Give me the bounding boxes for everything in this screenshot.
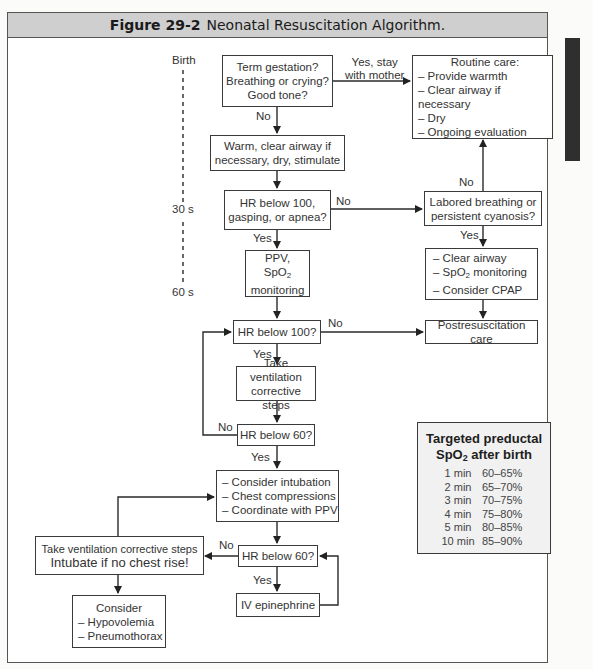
spo2-table-subtitle: SpO2 after birth (436, 447, 532, 466)
hr60-text: HR below 60? (242, 549, 314, 563)
edge-label-no: No (459, 176, 474, 188)
routine-care-title: Routine care: (451, 55, 519, 69)
clear-airway-box: – Clear airway – SpO2 monitoring – Consi… (425, 248, 538, 300)
postresuscitation-box: Postresuscitation care (425, 320, 538, 344)
ppv-line: PPV, (265, 251, 290, 265)
routine-care-box: Routine care: – Provide warmth – Clear a… (412, 55, 553, 139)
spo2-target-table: Targeted preductal SpO2 after birth 1 mi… (417, 422, 551, 554)
hr60-box-a: HR below 60? (237, 424, 315, 446)
spo2-row: 2 min65–70% (434, 481, 534, 495)
hr100-text: HR below 100? (238, 325, 317, 339)
assess-box: Term gestation? Breathing or crying? Goo… (222, 55, 333, 107)
ventilation-line: corrective steps (237, 384, 315, 412)
hr60-box-b: HR below 60? (238, 545, 318, 567)
timeline-30s: 30 s (172, 203, 194, 215)
ppv-box: PPV, SpO2 monitoring (245, 250, 310, 297)
edge-label-yes: Yes (253, 348, 272, 360)
routine-care-item: – Provide warmth (418, 69, 507, 83)
intubation-item: – Coordinate with PPV (222, 503, 338, 517)
epinephrine-text: IV epinephrine (241, 598, 315, 612)
edge-label-no: No (219, 539, 234, 551)
warm-line: Warm, clear airway if (224, 139, 331, 153)
edge-label-no: No (256, 110, 271, 122)
ventilation-left-line2: Intubate if no chest rise! (50, 556, 188, 570)
assess-line: Term gestation? (237, 60, 319, 74)
clear-airway-item: – Clear airway (433, 251, 507, 265)
routine-care-item: – Dry (418, 111, 445, 125)
intubation-item: – Consider intubation (222, 475, 331, 489)
spo2-row: 10 min85–90% (434, 535, 534, 549)
assess-line: Breathing or crying? (226, 74, 329, 88)
hr100-gasping-box: HR below 100, gasping, or apnea? (224, 190, 331, 230)
ventilation-left-line1: Take ventilation corrective steps (42, 542, 198, 556)
timeline-60s: 60 s (172, 286, 194, 298)
ventilation-corrective-box: Take ventilation corrective steps (236, 366, 316, 401)
warm-box: Warm, clear airway if necessary, dry, st… (210, 135, 345, 171)
ventilation-intubate-box: Take ventilation corrective steps Intuba… (35, 536, 204, 575)
spo2-table-title: Targeted preductal (426, 431, 542, 447)
hr100-box: HR below 100? (233, 320, 321, 344)
ventilation-line: Take ventilation (237, 356, 315, 384)
intubation-item: – Chest compressions (222, 489, 336, 503)
spo2-row: 1 min60–65% (434, 467, 534, 481)
postresuscitation-text: Postresuscitation care (426, 318, 537, 346)
epinephrine-box: IV epinephrine (236, 593, 320, 617)
warm-line: necessary, dry, stimulate (215, 153, 340, 167)
labored-breathing-box: Labored breathing or persistent cyanosis… (424, 191, 542, 226)
consider-item: – Pneumothorax (73, 629, 162, 643)
routine-care-item: – Ongoing evaluation (418, 125, 527, 139)
edge-label-no: No (218, 421, 233, 433)
edge-label-yes: Yes (253, 574, 272, 586)
edge-label-yes-stay: Yes, stay with mother (345, 56, 404, 82)
clear-airway-item: – Consider CPAP (433, 283, 522, 297)
consider-title: Consider (96, 601, 142, 615)
edge-label-yes: Yes (460, 229, 479, 241)
assess-line: Good tone? (247, 88, 307, 102)
intubation-box: – Consider intubation – Chest compressio… (216, 470, 339, 522)
spo2-row: 4 min75–80% (434, 508, 534, 522)
hr100-gasping-line: HR below 100, (240, 196, 315, 210)
ppv-line: monitoring (251, 283, 305, 297)
clear-airway-item: – SpO2 monitoring (433, 265, 527, 283)
edge-label-yes: Yes (251, 451, 270, 463)
consider-item: – Hypovolemia (73, 615, 154, 629)
spo2-row: 5 min80–85% (434, 521, 534, 535)
hr60-text: HR below 60? (240, 428, 312, 442)
edge-label-no: No (336, 195, 351, 207)
routine-care-item: – Clear airway if necessary (418, 83, 552, 111)
hr100-gasping-line: gasping, or apnea? (228, 210, 326, 224)
edge-label-yes: Yes (253, 232, 272, 244)
timeline-birth: Birth (172, 54, 196, 66)
consider-box: Consider – Hypovolemia – Pneumothorax (72, 595, 166, 648)
labored-line: persistent cyanosis? (431, 209, 535, 223)
labored-line: Labored breathing or (430, 195, 537, 209)
spo2-row: 3 min70–75% (434, 494, 534, 508)
edge-label-no: No (328, 317, 343, 329)
ppv-spo2: SpO2 (264, 265, 291, 283)
